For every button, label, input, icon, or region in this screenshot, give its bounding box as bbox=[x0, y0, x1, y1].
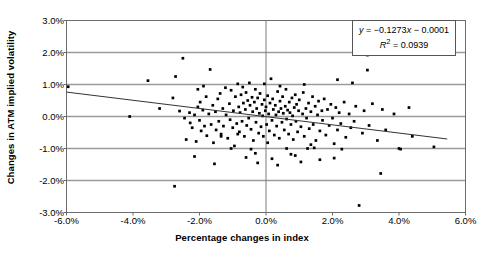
data-point bbox=[268, 130, 271, 133]
data-point bbox=[230, 89, 233, 92]
data-point bbox=[250, 148, 253, 151]
data-point bbox=[319, 130, 322, 133]
data-point bbox=[326, 108, 329, 111]
data-point bbox=[363, 109, 366, 112]
data-point bbox=[254, 152, 257, 155]
data-point bbox=[251, 110, 254, 113]
data-point bbox=[188, 111, 191, 114]
data-point bbox=[250, 128, 253, 131]
data-point bbox=[199, 101, 202, 104]
data-point bbox=[266, 94, 269, 97]
data-point bbox=[217, 120, 220, 123]
data-point bbox=[321, 109, 324, 112]
data-point bbox=[336, 78, 339, 81]
data-point bbox=[253, 101, 256, 104]
data-point bbox=[340, 148, 343, 151]
data-point bbox=[333, 157, 336, 160]
data-point bbox=[316, 114, 319, 117]
data-point bbox=[245, 91, 248, 94]
data-point bbox=[185, 138, 188, 141]
data-point bbox=[236, 83, 239, 86]
data-point bbox=[313, 147, 316, 150]
data-point bbox=[232, 109, 235, 112]
data-point bbox=[279, 85, 282, 88]
data-point bbox=[212, 141, 215, 144]
data-point bbox=[399, 148, 402, 151]
data-point bbox=[295, 103, 298, 106]
data-point bbox=[198, 119, 201, 122]
data-point bbox=[172, 97, 175, 100]
data-point bbox=[331, 117, 334, 120]
x-axis-tick-label: 2.0% bbox=[303, 215, 363, 227]
data-point bbox=[248, 82, 251, 85]
data-point bbox=[358, 204, 361, 207]
data-point bbox=[255, 121, 258, 124]
data-point bbox=[275, 114, 278, 117]
data-point bbox=[195, 140, 198, 143]
data-point bbox=[202, 85, 205, 88]
r-squared-line: R2 = 0.0939 bbox=[357, 36, 451, 51]
data-point bbox=[262, 135, 265, 138]
data-point bbox=[266, 141, 269, 144]
data-point bbox=[265, 106, 268, 109]
data-point bbox=[251, 96, 254, 99]
data-point bbox=[210, 123, 213, 126]
data-point bbox=[270, 77, 273, 80]
data-point bbox=[315, 139, 318, 142]
data-point bbox=[241, 120, 244, 123]
data-point bbox=[211, 104, 214, 107]
data-point bbox=[237, 106, 240, 109]
data-point bbox=[276, 164, 279, 167]
data-point bbox=[252, 139, 255, 142]
data-point bbox=[233, 145, 236, 148]
data-point bbox=[310, 110, 313, 113]
data-point bbox=[298, 99, 301, 102]
data-point bbox=[196, 88, 199, 91]
x-axis-tick-label: 4.0% bbox=[369, 215, 429, 227]
data-point bbox=[339, 122, 342, 125]
data-point bbox=[158, 107, 161, 110]
scatter-chart: Changes in ATM implied volatility 3.0%2.… bbox=[0, 0, 484, 268]
data-point bbox=[379, 172, 382, 175]
data-point bbox=[247, 117, 250, 120]
data-point bbox=[240, 93, 243, 96]
data-point bbox=[285, 147, 288, 150]
data-point bbox=[174, 75, 177, 78]
x-axis-title: Percentage changes in index bbox=[0, 232, 484, 243]
data-point bbox=[259, 92, 262, 95]
equation-body: = −0.1273 bbox=[364, 25, 407, 35]
data-point bbox=[260, 125, 263, 128]
data-point bbox=[353, 120, 356, 123]
data-point bbox=[258, 112, 261, 115]
data-point bbox=[128, 115, 131, 118]
data-point bbox=[231, 126, 234, 129]
data-point bbox=[305, 117, 308, 120]
data-point bbox=[173, 185, 176, 188]
data-point bbox=[290, 153, 293, 156]
data-point bbox=[338, 111, 341, 114]
regression-equation-box: y = −0.1273x − 0.0001 R2 = 0.0939 bbox=[352, 20, 456, 56]
data-point bbox=[314, 105, 317, 108]
data-point bbox=[245, 124, 248, 127]
data-point bbox=[200, 130, 203, 133]
x-axis-tick-label: -6.0% bbox=[37, 215, 97, 227]
x-axis-tick-label: -2.0% bbox=[170, 215, 230, 227]
data-point bbox=[291, 97, 294, 100]
data-point bbox=[183, 117, 186, 120]
data-point bbox=[257, 132, 260, 135]
data-point bbox=[241, 86, 244, 89]
data-point bbox=[408, 106, 411, 109]
equation-tail: − 0.0001 bbox=[411, 25, 449, 35]
x-axis-tick-label: -4.0% bbox=[103, 215, 163, 227]
data-point bbox=[291, 115, 294, 118]
data-point bbox=[303, 83, 306, 86]
data-point bbox=[193, 114, 196, 117]
data-point bbox=[344, 136, 347, 139]
data-point bbox=[267, 113, 270, 116]
data-point bbox=[254, 88, 257, 91]
data-point bbox=[265, 123, 268, 126]
data-point bbox=[189, 122, 192, 125]
data-point bbox=[336, 129, 339, 132]
data-point bbox=[215, 129, 218, 132]
data-point bbox=[275, 125, 278, 128]
